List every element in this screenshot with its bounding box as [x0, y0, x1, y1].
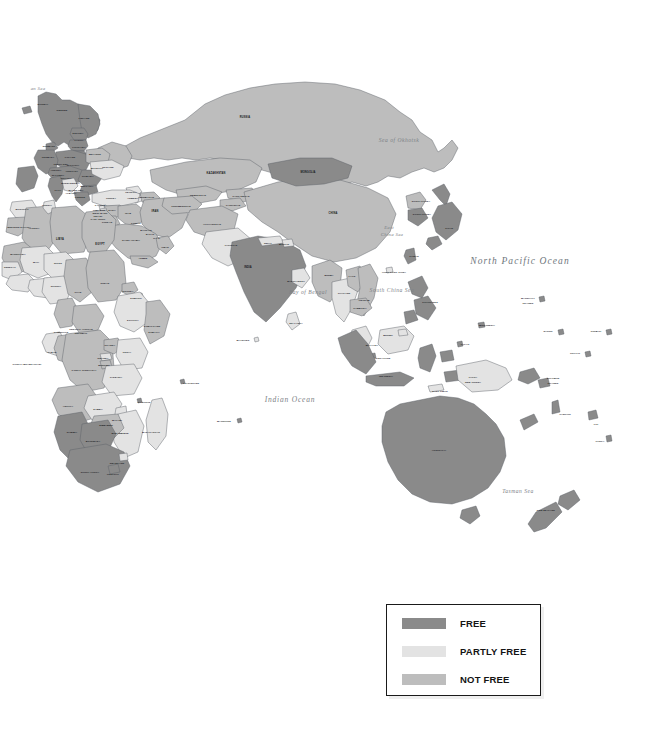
map-label-country: IRAQ: [125, 212, 131, 214]
map-label-country: SLOVAKIA: [67, 164, 80, 166]
map-label-country: BULGARIA: [80, 185, 93, 187]
map-label-country: BURUNDI: [98, 364, 109, 366]
legend-row-partly-free: PARTLY FREE: [402, 645, 526, 657]
map-label-country: SENEGAL: [4, 266, 16, 268]
map-label-country: ZAMBIA: [93, 408, 103, 410]
map-label-country: AZERBAIJAN: [138, 196, 154, 198]
map-label-country: UKRAINE: [102, 166, 113, 168]
map-label-country: ISLANDS: [548, 382, 559, 384]
map-label-country: ISLANDS: [523, 302, 534, 304]
map-label-country: SYRIA: [108, 209, 116, 211]
map-label-country: KUWAIT: [131, 222, 141, 224]
map-label-country: JAPAN: [445, 227, 453, 229]
map-label-country: VIETNAM: [358, 299, 369, 301]
map-label-country: BOTSWANA: [86, 440, 100, 442]
map-label-country: SAUDI ARABIA: [122, 239, 140, 241]
legend-label-partly-free: PARTLY FREE: [460, 646, 526, 657]
map-label-country: FIJI: [594, 423, 598, 425]
map-label-country: FINLAND: [79, 117, 90, 119]
map-label-country: UZBEKISTAN: [190, 194, 206, 196]
map-label-country: BURMA: [324, 274, 333, 276]
map-label-country: CROATIA: [60, 177, 71, 179]
map-label-country: TURKMENISTAN: [171, 205, 191, 207]
map-label-country: NEW ZEALAND: [537, 509, 555, 511]
map-label-country: MALDIVES: [237, 339, 250, 341]
legend-label-not-free: NOT FREE: [460, 674, 510, 685]
map-label-country: NEPAL: [264, 242, 272, 244]
map-label-country: ZIMBABWE: [99, 424, 113, 426]
map-label-country: GEORGIA: [125, 191, 137, 193]
map-label-country: NORWAY: [38, 103, 49, 105]
map-label-country: NAURU: [544, 330, 553, 332]
map-label-country: TAIWAN: [409, 255, 419, 257]
map-label-country: KIRIBATI: [591, 330, 602, 332]
map-label-country: MOROCCO: [15, 208, 28, 210]
map-label-country: TUNISIA: [42, 204, 52, 206]
map-label-country: MAURITIUS: [217, 420, 231, 422]
map-label-country: PHILIPPINES: [422, 301, 438, 303]
map-label-country: NIGERIA: [51, 285, 61, 287]
map-label-country: NEW GUINEA: [465, 381, 481, 383]
legend-label-free: FREE: [460, 618, 486, 629]
map-label-country: LITHUANIA: [72, 146, 85, 148]
map-label-country: GREECE: [75, 196, 85, 198]
legend-swatch-free: [402, 618, 446, 629]
map-label-country: REPUBLIC: [75, 332, 88, 334]
map-label-country: SOLOMON: [547, 377, 560, 379]
map-label-country: SOMALILAND: [144, 325, 161, 327]
map-label-country: CAMBODIA: [353, 307, 367, 309]
map-label-country: ITALY: [55, 189, 62, 191]
map-label-country: HONG KONG CHINA: [382, 271, 406, 273]
map-label-country: KYRGYZSTAN: [233, 195, 250, 197]
map-label-country: YEMEN: [139, 257, 148, 259]
map-label-country: NIGER: [54, 262, 62, 264]
map-label-country: EGYPT: [95, 244, 104, 247]
map-label-country: CENTRAL AFRICAN: [69, 328, 93, 330]
map-label-country: SRI LANKA: [289, 322, 303, 324]
map-label-country: AUSTRALIA: [432, 449, 446, 451]
map-label-country: MICRONESIA: [479, 324, 495, 326]
map-label-country: CAMEROON: [54, 331, 69, 333]
map-label-country: SWEDEN: [57, 109, 68, 111]
map-label-country: SEYCHELLES: [183, 382, 200, 384]
map-label-country: COMOROS: [138, 401, 151, 403]
legend-row-not-free: NOT FREE: [402, 673, 510, 685]
map-label-country: TUVALU: [570, 352, 580, 354]
map-label-country: ALBANIA: [65, 192, 76, 194]
map-label-country: KENYA: [123, 351, 131, 353]
map-label-country: SUDAN: [101, 282, 110, 284]
map-label-country: KAZAKHSTAN: [206, 173, 225, 176]
world-map: .f { fill:#8a8a8a; stroke:#5b6066; strok…: [0, 0, 652, 580]
map-label-country: TONGA: [596, 440, 605, 442]
map-label-country: SINGAPORE: [376, 357, 391, 359]
map-label-country: GABON: [47, 351, 56, 353]
map-label-country: SERBIA: [70, 182, 79, 184]
map-label-country: MALAYSIA: [366, 344, 379, 346]
map-label-country: U.A.E.: [153, 237, 160, 239]
map-label-country: INDONESIA: [379, 375, 393, 377]
legend-swatch-not-free: [402, 674, 446, 685]
map-label-country: CHAD: [74, 291, 81, 293]
map-label-country: JORDAN: [102, 221, 112, 223]
map-label-water: Bay of Bengal: [289, 289, 327, 295]
map-label-country: WESTERN SAHARA: [7, 226, 31, 228]
map-label-country: TAJIKISTAN: [226, 204, 240, 206]
map-label-country: ANGOLA: [63, 405, 74, 407]
legend-swatch-partly-free: [402, 646, 446, 657]
map-label-country: BRUNEI: [383, 334, 393, 336]
map-label-country: BHUTAN: [279, 243, 289, 245]
map-label-country: MAURITANIA: [10, 253, 26, 255]
map-label-country: LATVIA: [75, 139, 84, 141]
map-label-country: ESTONIA: [72, 132, 83, 134]
map-label-country: CONGO (BRAZZAVILLE): [13, 363, 42, 365]
map-label-country: TANZANIA: [110, 376, 123, 378]
map-label-country: DJIBOUTI: [130, 297, 142, 299]
map-label-country: SOUTH AFRICA: [81, 471, 100, 473]
map-label-country: SOMALIA: [148, 331, 159, 333]
map-label-country: MALI: [33, 261, 39, 263]
map-label-country: RUSSIA: [240, 117, 251, 120]
map-label-country: MOZAMBIQUE: [111, 432, 128, 434]
map-label-country: BELARUS: [89, 153, 101, 155]
map-label-country: PAKISTAN: [225, 244, 237, 246]
map-label-water: Sea of Okhotsk: [379, 137, 420, 143]
